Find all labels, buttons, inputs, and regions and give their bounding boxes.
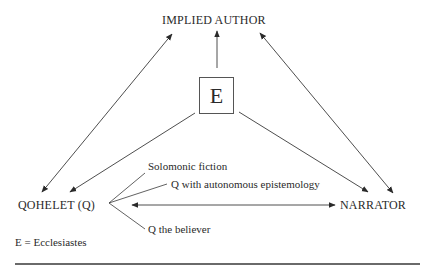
bottom-rule [15, 263, 420, 265]
aspect-solomonic-fiction: Solomonic fiction [148, 161, 227, 172]
fan-line-autonomous [109, 184, 167, 203]
fan-line-solomonic [109, 173, 145, 203]
narrative-diagram: IMPLIED AUTHOR E QOHELET (Q) NARRATOR So… [0, 0, 429, 269]
ecclesiastes-letter: E [210, 83, 223, 109]
narrator-label: NARRATOR [340, 199, 406, 211]
implied-author-label: IMPLIED AUTHOR [162, 14, 266, 26]
legend: E = Ecclesiastes [15, 236, 87, 248]
qohelet-label: QOHELET (Q) [18, 199, 95, 211]
fan-line-believer [109, 203, 145, 229]
diagram-connectors [0, 0, 429, 269]
aspect-believer: Q the believer [148, 224, 210, 235]
edge-narrator-implied-author [260, 33, 393, 193]
ecclesiastes-box: E [199, 77, 234, 114]
aspect-autonomous-epistemology: Q with autonomous epistemology [171, 179, 320, 190]
